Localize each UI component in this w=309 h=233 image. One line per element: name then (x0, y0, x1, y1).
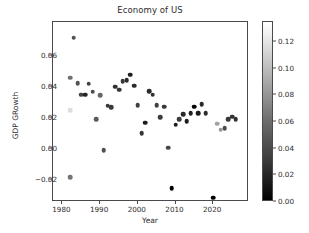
scatter-point (158, 115, 163, 120)
x-tick-label: 2000 (128, 205, 146, 214)
colorbar-tick-label: 0.06 (278, 117, 294, 126)
scatter-point (139, 131, 144, 136)
x-tick-mark (61, 201, 62, 204)
y-tick-mark (49, 179, 52, 180)
scatter-point (173, 123, 178, 128)
scatter-point (222, 126, 227, 131)
scatter-point (109, 105, 114, 110)
colorbar-tick-mark (273, 121, 276, 122)
x-tick-mark (99, 201, 100, 204)
colorbar-tick-mark (273, 41, 276, 42)
colorbar-tick-label: 0.08 (278, 90, 294, 99)
scatter-point (166, 145, 171, 150)
scatter-point (234, 117, 239, 122)
scatter-point (207, 58, 212, 63)
scatter-point (200, 102, 205, 107)
scatter-point (128, 72, 133, 77)
chart-title: Economy of US (52, 5, 248, 15)
x-tick-label: 2020 (203, 205, 221, 214)
y-tick-mark (49, 55, 52, 56)
scatter-point (215, 121, 220, 126)
scatter-point (185, 119, 190, 124)
scatter-point (117, 88, 122, 93)
scatter-point (68, 175, 73, 180)
scatter-point (143, 120, 148, 125)
scatter-point (203, 111, 208, 116)
scatter-point (68, 108, 73, 113)
scatter-point (154, 103, 159, 108)
scatter-point (162, 104, 167, 109)
scatter-point (87, 81, 92, 86)
scatter-point (177, 117, 182, 122)
scatter-point (90, 90, 95, 95)
colorbar-tick-mark (273, 201, 276, 202)
scatter-point (188, 111, 193, 116)
colorbar-tick-mark (273, 147, 276, 148)
scatter-point (136, 103, 141, 108)
colorbar-tick-label: 0.00 (278, 197, 294, 206)
y-tick-mark (49, 117, 52, 118)
scatter-point (98, 93, 103, 98)
scatter-point (71, 35, 76, 40)
scatter-point (75, 81, 80, 86)
y-tick-label: −0.02 (35, 175, 57, 184)
scatter-point (94, 117, 99, 122)
scatter-point (192, 104, 197, 109)
y-tick-mark (49, 148, 52, 149)
colorbar-tick-mark (273, 94, 276, 95)
scatter-point (151, 92, 156, 97)
x-tick-label: 1980 (52, 205, 70, 214)
colorbar-tick-label: 0.02 (278, 170, 294, 179)
y-axis-label: GDP GRowth (11, 76, 20, 156)
x-tick-mark (175, 201, 176, 204)
figure-canvas: Economy of US −0.020.000.020.040.06 1980… (0, 0, 309, 233)
colorbar-tick-label: 0.12 (278, 37, 294, 46)
x-tick-label: 1990 (90, 205, 108, 214)
scatter-point (124, 78, 129, 83)
scatter-point (169, 186, 174, 191)
x-tick-mark (212, 201, 213, 204)
colorbar-gradient (262, 21, 273, 201)
scatter-point (68, 76, 73, 81)
colorbar-tick-mark (273, 67, 276, 68)
x-tick-mark (137, 201, 138, 204)
plot-axes-area (52, 21, 248, 201)
scatter-point (132, 83, 137, 88)
y-tick-mark (49, 86, 52, 87)
colorbar (262, 21, 273, 201)
x-tick-label: 2010 (165, 205, 183, 214)
scatter-point (181, 112, 186, 117)
scatter-points-layer (53, 22, 247, 200)
x-axis-label: Year (52, 216, 248, 225)
scatter-point (83, 92, 88, 97)
scatter-point (102, 148, 107, 153)
colorbar-tick-mark (273, 174, 276, 175)
colorbar-tick-label: 0.10 (278, 63, 294, 72)
colorbar-tick-label: 0.04 (278, 143, 294, 152)
scatter-point (196, 111, 201, 116)
scatter-point (211, 195, 216, 200)
